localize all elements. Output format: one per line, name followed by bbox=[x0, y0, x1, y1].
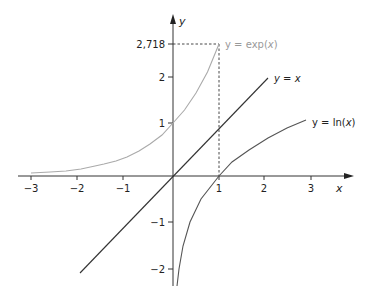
x-tick-label: −2 bbox=[70, 183, 85, 194]
x-tick-labels: −3 −2 −1 1 2 3 bbox=[24, 183, 315, 194]
y-tick-label: 2 bbox=[159, 72, 165, 83]
y-ticks bbox=[168, 44, 173, 269]
y-tick-label: −1 bbox=[150, 217, 165, 228]
x-tick-label: 1 bbox=[216, 183, 222, 194]
y-axis-arrow-icon bbox=[170, 14, 176, 24]
label-exp: y = exp(x) bbox=[225, 39, 278, 50]
y-tick-label: 2,718 bbox=[136, 39, 165, 50]
y-tick-labels: 2,718 2 1 −1 −2 bbox=[136, 39, 165, 275]
x-tick-label: 2 bbox=[261, 183, 267, 194]
axes bbox=[18, 14, 354, 286]
x-tick-label: 3 bbox=[308, 183, 314, 194]
curve-ln bbox=[177, 120, 306, 286]
y-axis-label: y bbox=[178, 15, 186, 28]
dashed-guides bbox=[173, 44, 219, 176]
label-ln: y = ln(x) bbox=[312, 117, 356, 128]
curve-exp bbox=[31, 44, 219, 173]
function-plot: −3 −2 −1 1 2 3 2,718 2 1 −1 −2 x y y = e… bbox=[0, 0, 365, 300]
y-tick-label: 1 bbox=[159, 118, 165, 129]
y-tick-label: −2 bbox=[150, 264, 165, 275]
x-tick-label: −1 bbox=[116, 183, 131, 194]
x-tick-label: −3 bbox=[24, 183, 39, 194]
label-identity: y = x bbox=[273, 73, 301, 84]
x-axis-arrow-icon bbox=[344, 173, 354, 179]
x-axis-label: x bbox=[335, 182, 343, 195]
